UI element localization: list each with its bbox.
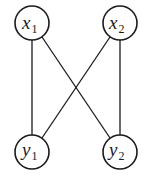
node-subscript: 1 [31, 22, 37, 36]
node-subscript: 1 [31, 149, 37, 163]
node-variable: x [108, 12, 118, 33]
node-x1: x1 [15, 6, 49, 40]
bipartite-graph-diagram: x1 x2 y1 y2 [0, 0, 145, 189]
node-variable: y [107, 139, 118, 160]
node-variable: x [21, 12, 31, 33]
node-x2: x2 [103, 6, 137, 40]
node-subscript: 2 [118, 149, 124, 163]
node-variable: y [20, 139, 31, 160]
node-y2: y2 [103, 135, 137, 169]
edges [32, 37, 120, 138]
node-y1: y1 [15, 135, 49, 169]
node-subscript: 2 [118, 22, 124, 36]
